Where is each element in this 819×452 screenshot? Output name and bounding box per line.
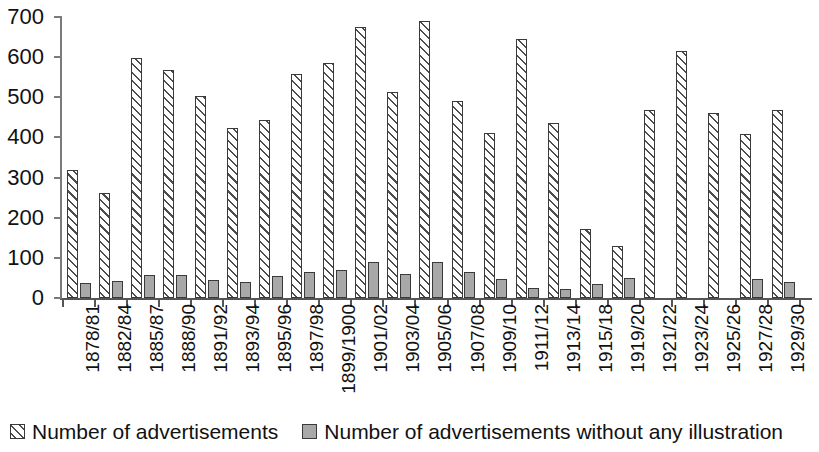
bar-group — [580, 17, 612, 298]
bar-group — [772, 17, 804, 298]
bar-group — [419, 17, 451, 298]
x-axis-category-label: 1915/18 — [596, 304, 615, 373]
x-axis-category-label: 1919/20 — [628, 304, 647, 373]
bar-group — [548, 17, 580, 298]
bar-advertisements-without-illustration — [272, 276, 283, 298]
bar-advertisements — [323, 63, 334, 298]
y-axis-tick-label: 700 — [7, 6, 44, 28]
bar-advertisements — [484, 133, 495, 298]
bar-group — [740, 17, 772, 298]
y-axis-tick — [54, 217, 62, 219]
y-axis-tick-label: 0 — [32, 287, 44, 309]
bar-advertisements-without-illustration — [336, 270, 347, 298]
x-axis-category-label: 1929/30 — [788, 304, 807, 373]
bar-advertisements — [99, 193, 110, 298]
x-axis-category-label: 1893/94 — [243, 304, 262, 373]
x-axis-category-label: 1909/10 — [500, 304, 519, 373]
bar-advertisements — [419, 21, 430, 298]
x-axis-category-label: 1901/02 — [371, 304, 390, 373]
bar-group — [259, 17, 291, 298]
bar-advertisements — [259, 120, 270, 298]
bar-group — [516, 17, 548, 298]
x-axis-category-label: 1885/87 — [147, 304, 166, 373]
y-axis-tick-label: 200 — [7, 207, 44, 229]
bar-group — [163, 17, 195, 298]
y-axis-tick-label: 400 — [7, 126, 44, 148]
bar-advertisements-without-illustration — [144, 275, 155, 298]
x-axis-category-label: 1888/90 — [179, 304, 198, 373]
bar-group — [291, 17, 323, 298]
x-axis-category-label: 1899/1900 — [339, 304, 358, 394]
bar-advertisements — [612, 246, 623, 298]
y-axis-tick-label: 100 — [7, 247, 44, 269]
bar-group — [612, 17, 644, 298]
bar-advertisements-without-illustration — [304, 272, 315, 298]
x-axis-category-label: 1925/26 — [724, 304, 743, 373]
bar-advertisements — [676, 51, 687, 298]
y-axis-tick — [54, 177, 62, 179]
x-axis-category-label: 1878/81 — [83, 304, 102, 373]
legend-label: Number of advertisements without any ill… — [324, 421, 783, 442]
legend-entry-advertisements-without-illustration: Number of advertisements without any ill… — [302, 421, 783, 442]
solid-swatch-icon — [302, 424, 317, 439]
bar-advertisements — [644, 110, 655, 298]
bar-advertisements — [516, 39, 527, 298]
x-axis-category-label: 1905/06 — [435, 304, 454, 373]
bar-group — [227, 17, 259, 298]
hatched-swatch-icon — [10, 424, 25, 439]
legend-entry-advertisements: Number of advertisements — [10, 421, 278, 442]
bar-advertisements — [452, 101, 463, 298]
x-axis-category-label: 1921/22 — [660, 304, 679, 373]
chart-legend: Number of advertisements Number of adver… — [10, 421, 783, 442]
x-axis-category-label: 1891/92 — [211, 304, 230, 373]
x-axis-category-labels: 1878/811882/841885/871888/901891/921893/… — [60, 296, 805, 411]
x-axis-category-label: 1897/98 — [307, 304, 326, 373]
bar-advertisements — [227, 128, 238, 298]
x-axis-category-label: 1907/08 — [468, 304, 487, 373]
bar-advertisements-without-illustration — [624, 278, 635, 298]
bar-advertisements-without-illustration — [464, 272, 475, 298]
bar-chart: 0100200300400500600700 1878/811882/84188… — [0, 0, 819, 452]
y-axis-tick — [54, 96, 62, 98]
bar-group — [323, 17, 355, 298]
y-axis-tick-label: 600 — [7, 46, 44, 68]
bar-advertisements — [163, 70, 174, 298]
bar-group — [644, 17, 676, 298]
bar-group — [708, 17, 740, 298]
bar-advertisements — [67, 170, 78, 298]
legend-label: Number of advertisements — [32, 421, 278, 442]
bar-advertisements — [580, 229, 591, 298]
y-axis-tick — [54, 136, 62, 138]
bar-advertisements — [740, 134, 751, 298]
y-axis-tick — [54, 257, 62, 259]
y-axis-tick — [54, 16, 62, 18]
bar-advertisements-without-illustration — [432, 262, 443, 298]
bar-advertisements — [708, 113, 719, 298]
bar-group — [387, 17, 419, 298]
bar-advertisements — [355, 27, 366, 298]
bar-group — [67, 17, 99, 298]
bar-group — [484, 17, 516, 298]
bar-advertisements — [291, 74, 302, 298]
y-axis-tick-labels: 0100200300400500600700 — [0, 17, 52, 298]
bar-advertisements-without-illustration — [368, 262, 379, 298]
bar-group — [195, 17, 227, 298]
x-axis-category-label: 1895/96 — [275, 304, 294, 373]
bar-group — [355, 17, 387, 298]
bar-advertisements — [195, 96, 206, 298]
bar-group — [131, 17, 163, 298]
x-axis-category-label: 1911/12 — [532, 304, 551, 371]
bar-advertisements — [772, 110, 783, 298]
x-axis-category-label: 1913/14 — [564, 304, 583, 373]
x-axis-category-label: 1923/24 — [692, 304, 711, 373]
x-axis-category-label: 1903/04 — [403, 304, 422, 373]
bar-advertisements-without-illustration — [176, 275, 187, 298]
x-axis-category-label: 1882/84 — [115, 304, 134, 373]
y-axis-line — [60, 17, 62, 298]
bar-advertisements — [131, 58, 142, 298]
bar-advertisements — [387, 92, 398, 298]
plot-area — [60, 17, 805, 298]
bar-advertisements — [548, 123, 559, 298]
bar-group — [99, 17, 131, 298]
y-axis-tick — [54, 56, 62, 58]
